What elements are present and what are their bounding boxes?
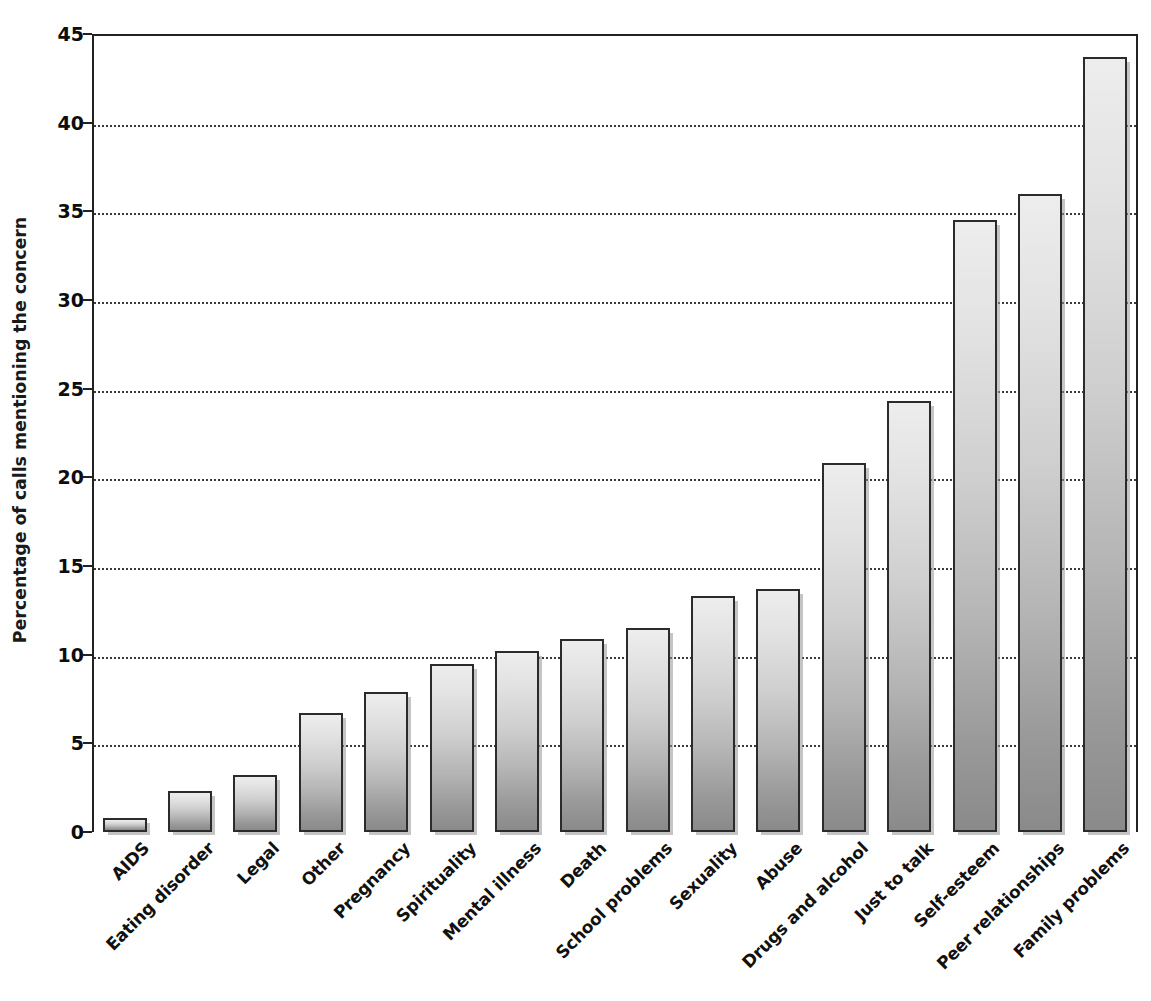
y-axis-tick-mark: [83, 210, 92, 212]
y-axis-tick-mark: [83, 742, 92, 744]
gridline: [94, 568, 1136, 570]
y-axis-tick-mark: [83, 122, 92, 124]
gridline: [94, 745, 1136, 747]
y-axis-tick-label: 45: [38, 23, 84, 45]
y-axis-title: Percentage of calls mentioning the conce…: [0, 0, 40, 860]
x-axis-tick-label: Eating disorder: [102, 838, 218, 954]
plot-area: [92, 34, 1138, 832]
y-axis-tick-label: 35: [38, 200, 84, 222]
y-axis-tick-mark: [83, 831, 92, 833]
x-axis-tick-label: School problems: [551, 838, 676, 963]
x-axis-tick-label: Abuse: [751, 838, 806, 893]
y-axis-tick-mark: [83, 299, 92, 301]
y-axis-tick-label: 40: [38, 112, 84, 134]
y-axis-tick-label: 15: [38, 555, 84, 577]
bar-chart-figure: Percentage of calls mentioning the conce…: [0, 0, 1151, 1001]
x-axis-tick-label: Other: [297, 838, 349, 890]
gridline: [94, 213, 1136, 215]
x-axis-tick-label: Family problems: [1010, 838, 1134, 962]
gridline: [94, 302, 1136, 304]
x-axis-tick-labels: AIDSEating disorderLegalOtherPregnancySp…: [92, 838, 1138, 1001]
y-axis-tick-label: 5: [38, 732, 84, 754]
y-axis-tick-label: 0: [38, 821, 84, 843]
y-axis-tick-mark: [83, 388, 92, 390]
y-axis-tick-label: 10: [38, 644, 84, 666]
x-axis-tick-label: Peer relationships: [933, 838, 1068, 973]
y-axis-tick-label: 30: [38, 289, 84, 311]
x-axis-tick-label: Legal: [233, 838, 283, 888]
gridline: [94, 479, 1136, 481]
gridline: [94, 657, 1136, 659]
y-axis-tick-mark: [83, 476, 92, 478]
x-axis-tick-label: Drugs and alcohol: [738, 838, 872, 972]
gridline: [94, 125, 1136, 127]
y-axis-tick-mark: [83, 654, 92, 656]
y-axis-title-text: Percentage of calls mentioning the conce…: [10, 217, 30, 643]
x-axis-tick-label: Death: [556, 838, 610, 892]
y-axis-tick-label: 20: [38, 466, 84, 488]
y-axis-tick-label: 25: [38, 378, 84, 400]
x-axis-tick-label: AIDS: [107, 838, 153, 884]
y-axis-tick-mark: [83, 565, 92, 567]
gridline: [94, 391, 1136, 393]
y-axis-tick-mark: [83, 33, 92, 35]
